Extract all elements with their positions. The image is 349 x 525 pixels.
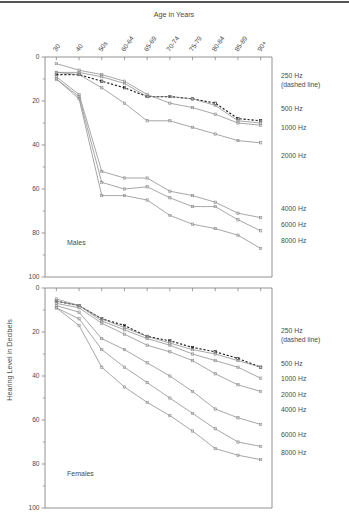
y-tick-label-60: 60	[32, 416, 40, 423]
series-line-2000-hz	[56, 303, 260, 391]
x-tick-label-60-64: 60-64	[120, 34, 136, 52]
legend-label-250-hz: 250 Hz	[281, 327, 303, 334]
x-tick-label-90+: 90+	[256, 39, 268, 52]
y-tick-label-0: 0	[36, 53, 40, 60]
series-line-500-hz	[56, 72, 260, 123]
legend-label-6000-hz: 6000 Hz	[281, 431, 307, 438]
x-tick-label-30: 30	[51, 42, 61, 52]
legend-label-8000-hz: 8000 Hz	[281, 449, 307, 456]
hearing-level-figure: Age in Years304050s60-6465-6970-7475-798…	[0, 0, 349, 525]
y-tick-label-20: 20	[32, 328, 40, 335]
y-tick-label-80: 80	[32, 460, 40, 467]
panel-females: 020406080100Females250 Hz(dashed line)50…	[28, 284, 320, 511]
legend-label-8000-hz: 8000 Hz	[281, 237, 307, 244]
series-line-8000-hz	[56, 79, 260, 248]
series-line-500-hz	[56, 299, 260, 367]
series-line-4000-hz	[56, 77, 260, 218]
legend-label-2000-hz: 2000 Hz	[281, 152, 307, 159]
y-tick-label-100: 100	[28, 273, 39, 280]
legend-label-1000-hz: 1000 Hz	[281, 375, 307, 382]
legend-label-6000-hz: 6000 Hz	[281, 221, 307, 228]
y-tick-label-20: 20	[32, 97, 40, 104]
x-tick-label-70-74: 70-74	[165, 34, 181, 52]
legend-label-2000-hz: 2000 Hz	[281, 391, 307, 398]
x-tick-label-50s: 50s	[97, 39, 109, 52]
x-tick-label-40: 40	[74, 42, 84, 52]
legend-label-1000-hz: 1000 Hz	[281, 124, 307, 131]
legend-label-4000-hz: 4000 Hz	[281, 205, 307, 212]
series-line-6000-hz	[56, 308, 260, 447]
legend-sublabel-dashed-line: (dashed line)	[281, 336, 320, 344]
legend-label-500-hz: 500 Hz	[281, 360, 303, 367]
y-tick-label-0: 0	[36, 284, 40, 291]
panel-label-females: Females	[67, 470, 94, 477]
legend-label-500-hz: 500 Hz	[281, 105, 303, 112]
series-line-250-hz	[56, 75, 260, 121]
y-tick-label-80: 80	[32, 229, 40, 236]
panel-label-males: Males	[67, 239, 86, 246]
panel-males: 020406080100Males250 Hz(dashed line)500 …	[28, 53, 320, 280]
y-tick-label-100: 100	[28, 504, 39, 511]
x-axis-title: Age in Years	[154, 10, 195, 19]
series-line-1000-hz	[56, 64, 260, 126]
y-tick-label-40: 40	[32, 372, 40, 379]
legend-label-250-hz: 250 Hz	[281, 72, 303, 79]
x-tick-label-80-84: 80-84	[210, 34, 226, 52]
y-tick-label-60: 60	[32, 185, 40, 192]
x-tick-label-65-69: 65-69	[142, 34, 158, 52]
legend-label-4000-hz: 4000 Hz	[281, 406, 307, 413]
legend-sublabel-dashed-line: (dashed line)	[281, 81, 320, 89]
series-line-8000-hz	[56, 308, 260, 460]
x-tick-label-85-89: 85-89	[233, 34, 249, 52]
figure-svg: Age in Years304050s60-6465-6970-7475-798…	[0, 0, 349, 525]
x-tick-label-75-79: 75-79	[188, 34, 204, 52]
y-axis-title: Hearing Level in Decibels	[5, 319, 14, 401]
y-tick-label-40: 40	[32, 141, 40, 148]
